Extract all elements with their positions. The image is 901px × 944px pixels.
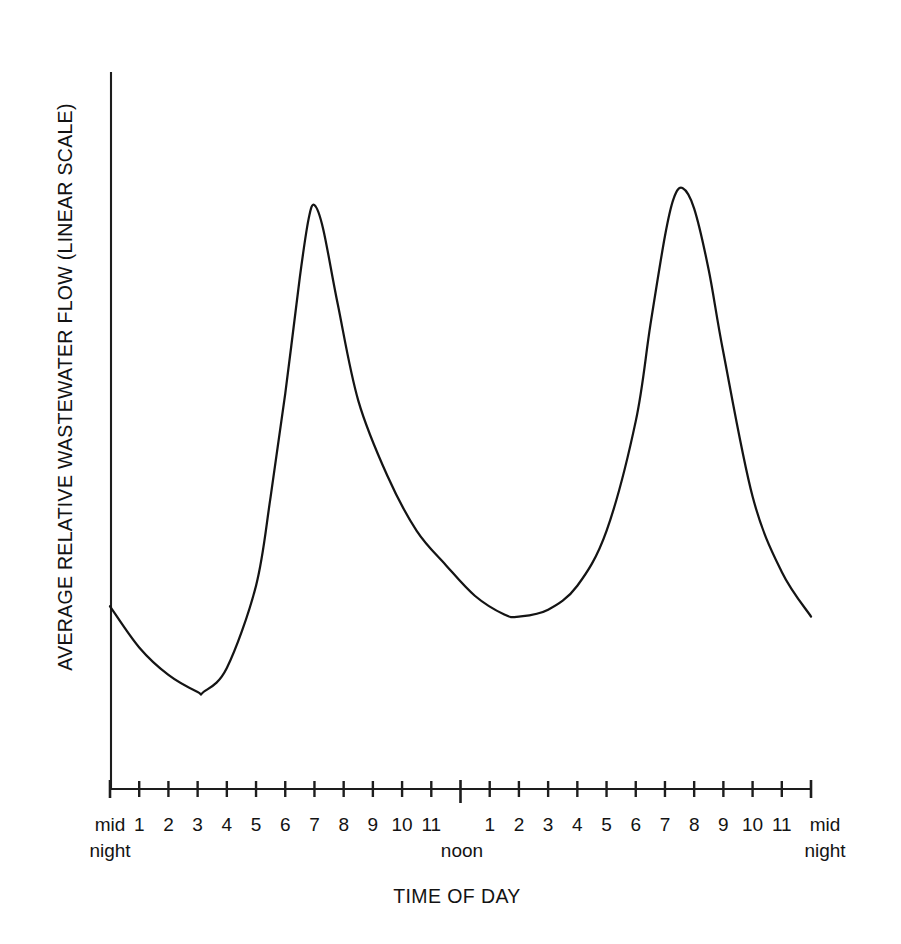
x-tick-label: 7 (660, 814, 671, 835)
x-tick-label: 8 (689, 814, 700, 835)
x-tick-label: 9 (368, 814, 379, 835)
x-tick-label: 5 (601, 814, 612, 835)
x-label-noon: noon (441, 840, 483, 861)
x-axis-ticks (110, 780, 811, 803)
x-tick-label: 10 (392, 814, 413, 835)
x-tick-label: 6 (630, 814, 641, 835)
x-tick-label: 3 (543, 814, 554, 835)
x-tick-label: 11 (772, 814, 792, 835)
y-axis-title: AVERAGE RELATIVE WASTEWATER FLOW (LINEAR… (54, 103, 76, 670)
wastewater-flow-chart: 12345678910111234567891011 mid night noo… (0, 0, 901, 944)
x-endpoint-labels: mid night noon mid night (89, 814, 846, 861)
x-tick-label: 5 (251, 814, 262, 835)
x-axis-title: TIME OF DAY (393, 885, 521, 907)
x-tick-label: 4 (572, 814, 583, 835)
x-tick-label: 10 (742, 814, 763, 835)
x-label-midnight-left-line2: night (89, 840, 131, 861)
x-tick-label: 3 (192, 814, 203, 835)
x-tick-label: 9 (718, 814, 729, 835)
x-tick-label: 2 (163, 814, 174, 835)
x-tick-label: 11 (421, 814, 441, 835)
x-axis-tick-labels: 12345678910111234567891011 (134, 814, 792, 835)
plot-axes (110, 72, 811, 789)
x-tick-label: 1 (134, 814, 145, 835)
x-label-midnight-left-line1: mid (95, 814, 126, 835)
x-tick-label: 7 (309, 814, 320, 835)
x-label-midnight-right-line2: night (804, 840, 846, 861)
x-tick-label: 2 (514, 814, 525, 835)
x-tick-label: 6 (280, 814, 291, 835)
x-tick-label: 8 (338, 814, 349, 835)
wastewater-flow-curve (110, 188, 811, 695)
x-tick-label: 4 (222, 814, 233, 835)
x-label-midnight-right-line1: mid (810, 814, 841, 835)
x-tick-label: 1 (484, 814, 495, 835)
